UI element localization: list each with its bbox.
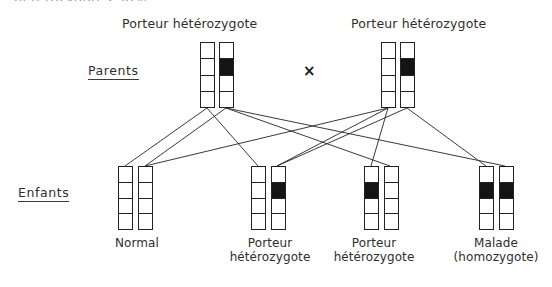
allele-segment (385, 167, 398, 183)
allele-segment (119, 183, 132, 199)
allele-segment (201, 92, 214, 107)
child-4-caption-line1: Malade (440, 236, 552, 250)
child-3-caption-line1: Porteur (322, 236, 426, 250)
allele-segment (385, 183, 398, 199)
child-1-caption-line1: Normal (95, 236, 179, 250)
allele-segment-mutant (480, 183, 493, 199)
allele-segment (382, 59, 395, 75)
parent-1-chromosome-right[interactable] (219, 42, 234, 108)
allele-segment (500, 167, 513, 183)
allele-segment (365, 214, 378, 229)
allele-segment (500, 199, 513, 215)
allele-segment (382, 43, 395, 59)
allele-segment (365, 199, 378, 215)
parent-2-chromosome-right[interactable] (400, 42, 415, 108)
parent-1-title: Porteur hétérozygote (122, 16, 257, 31)
allele-segment (220, 92, 233, 107)
allele-segment (119, 214, 132, 229)
allele-segment (220, 43, 233, 59)
child-3-caption-line2: hétérozygote (322, 250, 426, 264)
allele-segment-mutant (365, 183, 378, 199)
allele-segment (139, 214, 152, 229)
allele-segment (385, 214, 398, 229)
allele-segment (500, 214, 513, 229)
allele-segment (119, 199, 132, 215)
allele-segment-mutant (500, 183, 513, 199)
child-4-caption-line2: (homozygote) (440, 250, 552, 264)
allele-segment (201, 59, 214, 75)
allele-segment (385, 199, 398, 215)
allele-segment (401, 76, 414, 92)
allele-segment (272, 167, 285, 183)
child-2-chromosome-left[interactable] (251, 166, 266, 230)
child-1-chromosome-right[interactable] (138, 166, 153, 230)
allele-segment (272, 199, 285, 215)
allele-segment (480, 199, 493, 215)
allele-segment-mutant (401, 59, 414, 75)
allele-segment (252, 199, 265, 215)
allele-segment (480, 214, 493, 229)
row-label-children: Enfants (18, 185, 69, 202)
cut-off-header-text: hétérozygotes 50% (14, 0, 147, 1)
parent-1-chromosome-left[interactable] (200, 42, 215, 108)
allele-segment (480, 167, 493, 183)
child-2-chromosome-right[interactable] (271, 166, 286, 230)
child-3-chromosome-right[interactable] (384, 166, 399, 230)
allele-segment-mutant (220, 59, 233, 75)
allele-segment-mutant (272, 183, 285, 199)
allele-segment (252, 214, 265, 229)
inheritance-diagram: hétérozygotes 50% Porteur hétérozygote P… (0, 0, 552, 287)
child-2-caption-line2: hétérozygote (218, 250, 322, 264)
cross-symbol: × (303, 62, 316, 80)
row-label-parents: Parents (88, 63, 139, 80)
child-3-chromosome-left[interactable] (364, 166, 379, 230)
allele-segment (382, 92, 395, 107)
child-4-chromosome-right[interactable] (499, 166, 514, 230)
allele-segment (401, 43, 414, 59)
allele-segment (139, 199, 152, 215)
allele-segment (201, 43, 214, 59)
child-1-chromosome-left[interactable] (118, 166, 133, 230)
allele-segment (201, 76, 214, 92)
allele-segment (139, 183, 152, 199)
allele-segment (365, 167, 378, 183)
parent-2-chromosome-left[interactable] (381, 42, 396, 108)
allele-segment (401, 92, 414, 107)
allele-segment (252, 183, 265, 199)
allele-segment (220, 76, 233, 92)
allele-segment (382, 76, 395, 92)
allele-segment (252, 167, 265, 183)
allele-segment (272, 214, 285, 229)
allele-segment (139, 167, 152, 183)
child-4-chromosome-left[interactable] (479, 166, 494, 230)
child-2-caption-line1: Porteur (218, 236, 322, 250)
allele-segment (119, 167, 132, 183)
parent-2-title: Porteur hétérozygote (351, 16, 486, 31)
